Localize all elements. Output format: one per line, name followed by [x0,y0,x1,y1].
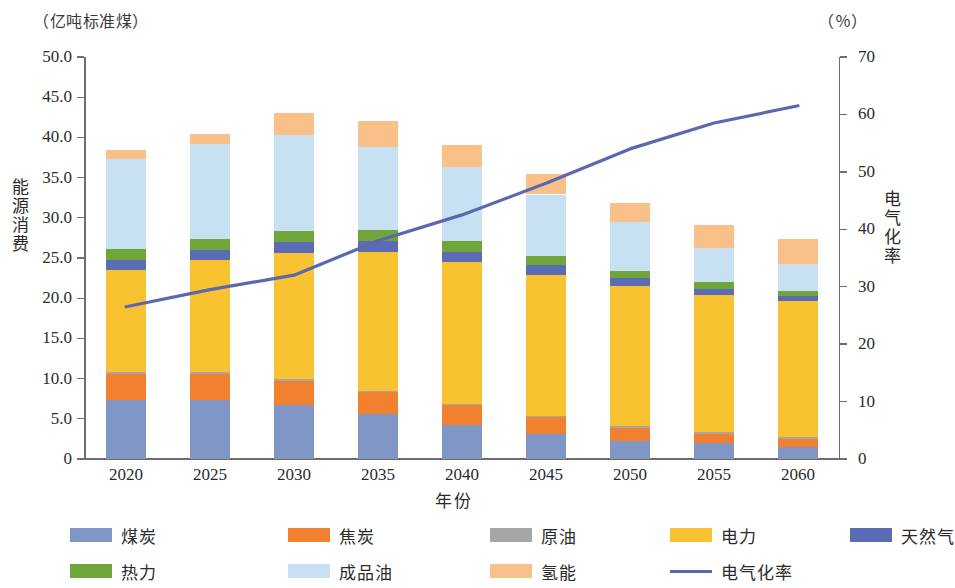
left-tick-label: 40.0 [42,128,72,145]
legend-item[interactable]: 天然气 [850,520,955,550]
left-axis-unit-label: （亿吨标准煤） [33,8,149,32]
legend-label: 天然气 [901,523,955,548]
legend-item[interactable]: 焦炭 [288,520,375,550]
left-tick-mark [77,177,84,178]
chart-legend: 煤炭焦炭原油电力天然气热力成品油氢能电气化率 [60,520,908,588]
legend-label: 热力 [121,559,157,584]
legend-color-swatch-icon [70,528,112,542]
x-category-label: 2020 [86,465,166,485]
right-tick-label: 10 [858,393,875,410]
right-tick-label: 0 [858,450,867,467]
right-tick-mark [840,458,847,459]
legend-row: 煤炭焦炭原油电力天然气 [60,520,908,550]
right-tick-mark [840,343,847,344]
legend-row: 热力成品油氢能电气化率 [60,556,908,586]
x-category-label: 2055 [674,465,754,485]
right-tick-mark [840,401,847,402]
x-category-label: 2060 [758,465,838,485]
electrification-rate-line [84,57,840,459]
left-tick-label: 25.0 [42,249,72,266]
legend-label: 焦炭 [339,523,375,548]
legend-color-swatch-icon [490,564,532,578]
right-tick-mark [840,229,847,230]
left-tick-mark [77,257,84,258]
x-axis-title: 年份 [0,487,908,512]
left-tick-label: 20.0 [42,289,72,306]
right-tick-label: 20 [858,335,875,352]
plot-area: 05.010.015.020.025.030.035.040.045.050.0… [84,57,840,459]
legend-color-swatch-icon [288,528,330,542]
legend-item[interactable]: 原油 [490,520,577,550]
left-tick-label: 0 [64,450,73,467]
left-tick-mark [77,137,84,138]
left-tick-label: 35.0 [42,169,72,186]
right-axis-unit-label: （％） [818,8,868,32]
right-tick-label: 60 [858,105,875,122]
legend-label: 氢能 [541,559,577,584]
right-tick-label: 40 [858,220,875,237]
right-tick-label: 30 [858,278,875,295]
x-category-label: 2035 [338,465,418,485]
right-tick-mark [840,286,847,287]
x-category-label: 2050 [590,465,670,485]
left-axis-title: 能源消费 [6,178,31,254]
right-axis-title: 电气化率 [878,190,903,266]
left-tick-mark [77,97,84,98]
legend-label: 煤炭 [121,523,157,548]
legend-item[interactable]: 煤炭 [70,520,157,550]
legend-label: 成品油 [339,559,393,584]
legend-color-swatch-icon [70,564,112,578]
right-tick-mark [840,56,847,57]
left-tick-mark [77,418,84,419]
left-tick-label: 5.0 [51,410,72,427]
x-category-label: 2025 [170,465,250,485]
legend-item[interactable]: 电气化率 [670,556,793,586]
left-tick-label: 15.0 [42,329,72,346]
left-tick-mark [77,298,84,299]
x-category-label: 2045 [506,465,586,485]
left-tick-mark [77,56,84,57]
left-tick-label: 10.0 [42,370,72,387]
left-tick-mark [77,217,84,218]
right-tick-mark [840,171,847,172]
left-tick-mark [77,458,84,459]
right-tick-label: 70 [858,48,875,65]
right-tick-mark [840,114,847,115]
left-tick-label: 50.0 [42,48,72,65]
left-tick-mark [77,378,84,379]
legend-item[interactable]: 热力 [70,556,157,586]
legend-color-swatch-icon [670,528,712,542]
x-category-label: 2030 [254,465,334,485]
legend-label: 电力 [721,523,757,548]
legend-item[interactable]: 氢能 [490,556,577,586]
legend-item[interactable]: 电力 [670,520,757,550]
left-tick-label: 30.0 [42,209,72,226]
right-tick-label: 50 [858,163,875,180]
legend-label: 电气化率 [721,559,793,584]
legend-label: 原油 [541,523,577,548]
legend-item[interactable]: 成品油 [288,556,393,586]
legend-color-swatch-icon [288,564,330,578]
legend-color-swatch-icon [490,528,532,542]
legend-color-swatch-icon [850,528,892,542]
legend-line-swatch-icon [670,570,712,573]
left-tick-label: 45.0 [42,88,72,105]
line-path [126,106,798,307]
x-category-label: 2040 [422,465,502,485]
left-tick-mark [77,338,84,339]
